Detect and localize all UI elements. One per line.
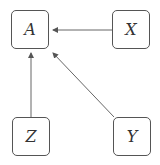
- edge-y-to-a: [53, 53, 114, 117]
- node-x: X: [112, 10, 150, 49]
- node-y: Y: [113, 117, 151, 156]
- node-z-label: Z: [25, 127, 36, 146]
- node-a-label: A: [24, 20, 36, 39]
- node-y-label: Y: [127, 127, 138, 146]
- node-a: A: [11, 10, 49, 49]
- node-z: Z: [12, 117, 50, 156]
- node-x-label: X: [125, 20, 136, 39]
- diagram-canvas: A X Z Y: [0, 0, 160, 165]
